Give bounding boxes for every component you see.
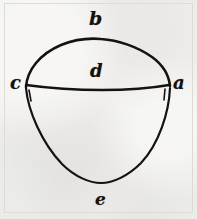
point-label-a: a xyxy=(173,74,185,92)
figure-plate: b c d a e xyxy=(0,0,197,219)
point-label-d: d xyxy=(90,62,103,80)
lower-lobe-arc xyxy=(26,88,170,183)
c-junction-tick xyxy=(29,90,31,101)
point-label-c: c xyxy=(10,74,21,92)
point-label-e: e xyxy=(95,191,106,208)
diagram-drawing xyxy=(0,0,197,219)
point-label-b: b xyxy=(89,9,102,28)
a-junction-tick xyxy=(164,89,165,100)
chord-line xyxy=(26,85,169,90)
